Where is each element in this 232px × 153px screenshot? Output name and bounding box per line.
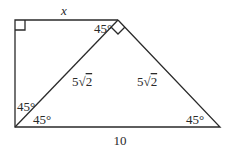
label-right-side: 5√2 <box>137 74 157 89</box>
label-angle-bottom-left-lower: 45° <box>33 112 51 127</box>
right-angle-marker-top-left <box>15 20 25 30</box>
label-diagonal: 5√2 <box>72 74 92 89</box>
label-angle-bottom-right: 45° <box>186 112 204 127</box>
label-x: x <box>60 3 67 18</box>
label-angle-top: 45° <box>94 21 112 36</box>
right-angle-marker-top-vertex <box>111 27 125 34</box>
trapezoid-outline <box>15 20 220 127</box>
label-bottom: 10 <box>114 133 127 148</box>
trapezoid-diagram: x 45° 5√2 5√2 45° 45° 45° 10 <box>0 0 232 153</box>
